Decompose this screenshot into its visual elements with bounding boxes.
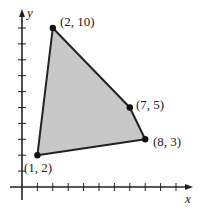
x-axis-label: x xyxy=(184,191,191,206)
feasible-region xyxy=(37,28,145,155)
plot-area: x y (1, 2) (2, 10) (7, 5) (8, 3) xyxy=(0,0,201,208)
vertex-label-8-3: (8, 3) xyxy=(153,134,181,149)
y-axis-arrow-icon xyxy=(19,9,25,17)
y-axis-label: y xyxy=(25,5,33,20)
vertex-label-2-10: (2, 10) xyxy=(60,14,95,29)
vertex-dot xyxy=(34,152,40,158)
vertex-label-1-2: (1, 2) xyxy=(24,160,52,175)
x-axis-arrow-icon xyxy=(185,184,193,190)
vertex-dot xyxy=(50,25,56,31)
vertex-dot xyxy=(127,104,133,110)
vertex-dot xyxy=(142,136,148,142)
vertex-label-7-5: (7, 5) xyxy=(136,97,164,112)
